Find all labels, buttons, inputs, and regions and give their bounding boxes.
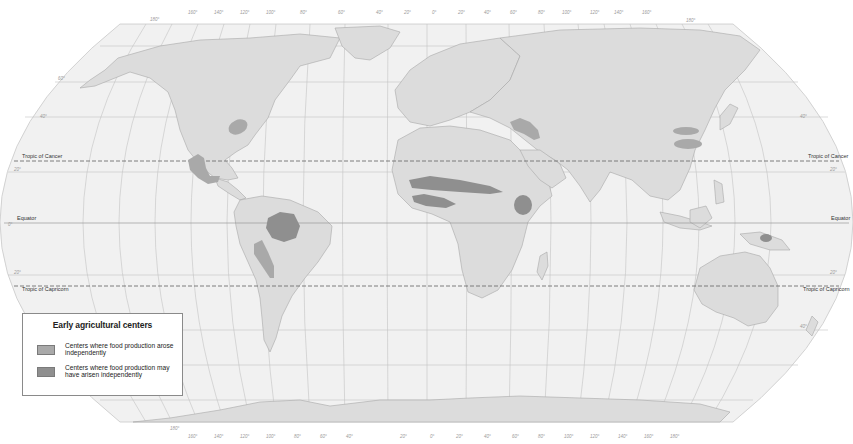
center-south-china (674, 139, 702, 149)
tick-lat-s20-right: 20° (829, 270, 837, 275)
tick-lon-bottom: 140° (214, 434, 224, 439)
tick-lon-top: 20° (403, 10, 411, 15)
tick-lon-top: 40° (484, 10, 491, 15)
tick-lon-top: 120° (240, 10, 250, 15)
tick-lon-bottom: 100° (564, 434, 574, 439)
tick-lon-bottom: 60° (320, 434, 327, 439)
tick-lat-40-right: 40° (800, 114, 807, 119)
center-ethiopia (514, 195, 532, 215)
tick-lon-top: 0° (432, 10, 437, 15)
tick-lon-bottom: 160° (188, 434, 198, 439)
tick-lon-top: 120° (590, 10, 600, 15)
tick-lon-bottom: 20° (399, 434, 407, 439)
tick-lon-bottom: 140° (618, 434, 628, 439)
tropic-of-cancer-label-right: Tropic of Cancer (808, 153, 849, 159)
tick-lon-bottom: 40° (484, 434, 491, 439)
tick-lat-s20-left: 20° (13, 270, 21, 275)
tick-lon-top: 140° (614, 10, 624, 15)
legend-item-arose: Centers where food production arose inde… (37, 342, 175, 357)
tick-lon-bottom: 100° (266, 434, 276, 439)
tick-lon-top: 80° (300, 10, 307, 15)
tropic-of-capricorn-label-left: Tropic of Capricorn (22, 286, 69, 292)
legend: Early agricultural centers Centers where… (22, 313, 183, 396)
tick-lon-bottom: 120° (240, 434, 250, 439)
equator-label-left: Equator (17, 215, 36, 221)
tick-lon-bottom: 180° (670, 434, 680, 439)
top-longitude-ticks: 180° 160° 140° 120° 100° 80° 60° 40° 20°… (150, 10, 696, 23)
bottom-longitude-ticks: 180° 160° 140° 120° 100° 80° 60° 40° 20°… (170, 426, 680, 439)
tick-lon-top: 100° (266, 10, 276, 15)
tick-lat-60-left: 60° (58, 76, 65, 81)
tropic-of-capricorn-label-right: Tropic of Capricorn (803, 286, 850, 292)
tick-lon-bottom: 80° (538, 434, 545, 439)
tropic-of-cancer-label-left: Tropic of Cancer (22, 153, 63, 159)
tick-lat-s40-right: 40° (800, 324, 807, 329)
legend-title: Early agricultural centers (23, 320, 182, 330)
legend-label-may-have-arisen: Centers where food production may have a… (65, 364, 175, 379)
center-north-china (673, 127, 699, 135)
equator-label-right: Equator (831, 215, 850, 221)
tick-lon-top: 100° (562, 10, 572, 15)
tick-lon-top: 20° (457, 10, 465, 15)
tick-lon-bottom: 80° (294, 434, 301, 439)
tick-lon-top: 180° (686, 18, 696, 23)
tick-lat-40-left: 40° (40, 114, 47, 119)
tick-lon-top: 140° (214, 10, 224, 15)
legend-item-may-have-arisen: Centers where food production may have a… (37, 364, 175, 379)
tick-lat-20-left: 20° (13, 167, 21, 172)
legend-swatch-may-have-arisen (37, 367, 55, 377)
legend-label-arose: Centers where food production arose inde… (65, 342, 175, 357)
tick-lon-bottom: 180° (170, 426, 180, 431)
tick-lon-bottom: 120° (590, 434, 600, 439)
tick-lat-20-right: 20° (829, 167, 837, 172)
tick-lon-top: 80° (538, 10, 545, 15)
tick-lon-top: 180° (150, 17, 160, 22)
tick-lon-bottom: 0° (430, 434, 435, 439)
legend-swatch-arose (37, 345, 55, 355)
tick-lon-top: 160° (642, 10, 652, 15)
tick-lon-bottom: 160° (644, 434, 654, 439)
center-new-guinea (760, 234, 772, 242)
tick-lon-top: 60° (510, 10, 517, 15)
tick-lon-bottom: 60° (512, 434, 519, 439)
tick-lon-bottom: 20° (455, 434, 463, 439)
tick-lon-bottom: 40° (346, 434, 353, 439)
tick-lon-top: 60° (338, 10, 345, 15)
tick-lat-0-left: 0° (8, 222, 13, 227)
tick-lon-top: 40° (376, 10, 383, 15)
tick-lon-top: 160° (188, 10, 198, 15)
